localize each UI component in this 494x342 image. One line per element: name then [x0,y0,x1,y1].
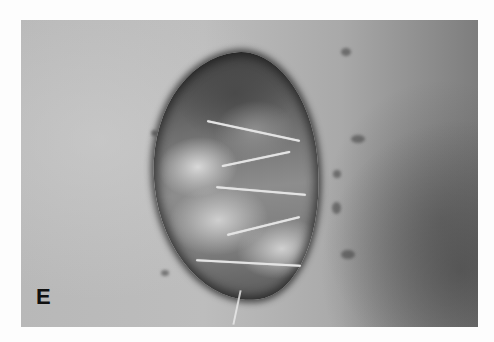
skin-mark [332,202,341,214]
surgical-photo [21,20,478,327]
skin-mark [341,250,355,259]
skin-mark [333,170,341,178]
skin-mark [161,270,169,276]
skin-mark [341,48,351,56]
panel-label: E [36,286,51,308]
wound-bed [141,45,331,309]
skin-mark [351,135,365,143]
